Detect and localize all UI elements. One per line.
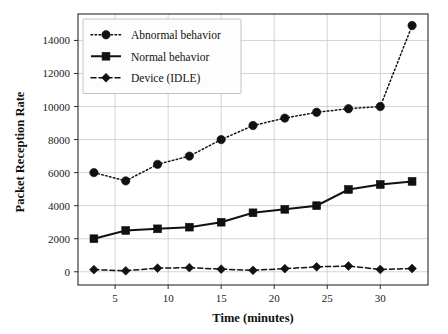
data-point: [185, 152, 193, 160]
x-tick-label: 20: [269, 292, 281, 304]
data-point: [185, 223, 193, 231]
data-point: [344, 104, 352, 112]
x-tick-label: 30: [375, 292, 387, 304]
x-tick-label: 10: [163, 292, 175, 304]
data-point: [408, 177, 416, 185]
y-tick-label: 12000: [43, 67, 71, 79]
x-axis-title: Time (minutes): [212, 311, 293, 325]
legend-layer: Abnormal behaviorNormal behaviorDevice (…: [83, 19, 241, 94]
data-point: [90, 168, 98, 176]
data-point: [408, 21, 416, 29]
legend-marker: [102, 52, 110, 60]
data-point: [249, 266, 258, 275]
data-point: [376, 265, 385, 274]
data-point: [121, 266, 130, 275]
x-tick-label: 15: [216, 292, 228, 304]
data-point: [345, 186, 353, 194]
legend-label-2: Device (IDLE): [131, 72, 200, 85]
data-point: [90, 235, 98, 243]
data-point: [122, 227, 130, 235]
data-point: [122, 177, 130, 185]
chart-figure: 0200040006000800010000120001400051015202…: [0, 0, 448, 334]
data-point: [249, 121, 257, 129]
y-tick-label: 10000: [43, 101, 71, 113]
data-point: [217, 265, 226, 274]
y-tick-label: 4000: [48, 200, 71, 212]
data-point: [376, 181, 384, 189]
y-tick-label: 2000: [48, 233, 71, 245]
data-point: [249, 209, 257, 217]
legend-marker: [102, 31, 110, 39]
data-point: [153, 160, 161, 168]
y-tick-label: 6000: [48, 167, 71, 179]
data-point: [376, 102, 384, 110]
x-tick-label: 25: [322, 292, 334, 304]
data-point: [153, 264, 162, 273]
data-point: [344, 262, 353, 271]
legend-label-0: Abnormal behavior: [131, 29, 221, 41]
legend-label-1: Normal behavior: [131, 51, 209, 63]
y-tick-label: 0: [65, 266, 71, 278]
y-axis-title: Packet Reception Rate: [13, 91, 27, 212]
line-chart: 0200040006000800010000120001400051015202…: [0, 0, 448, 334]
data-point: [312, 262, 321, 271]
data-point: [281, 205, 289, 213]
y-tick-label: 8000: [48, 134, 71, 146]
data-point: [312, 108, 320, 116]
data-point: [217, 135, 225, 143]
data-point: [185, 263, 194, 272]
data-point: [281, 114, 289, 122]
x-tick-label: 5: [112, 292, 118, 304]
data-point: [154, 225, 162, 233]
data-point: [217, 218, 225, 226]
data-point: [313, 202, 321, 210]
data-point: [90, 265, 99, 274]
y-tick-label: 14000: [43, 34, 71, 46]
